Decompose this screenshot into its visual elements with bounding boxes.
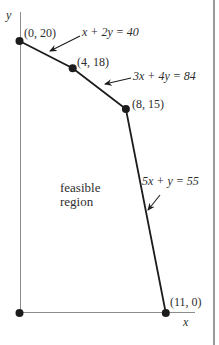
- arrow-to-line-5x-plus-y: [148, 195, 160, 210]
- feasible-region-label: feasible region: [60, 181, 100, 209]
- feasible-region-label-line1: feasible: [60, 181, 100, 195]
- arrow-to-line-3x-plus-4y: [105, 78, 131, 84]
- vertex-dot: [69, 64, 77, 72]
- equation-label-3x-plus-4y-84: 3x + 4y = 84: [133, 70, 196, 83]
- page-border: [213, 0, 215, 345]
- vertex-dot: [16, 309, 24, 317]
- feasible-region-label-line2: region: [60, 195, 100, 209]
- y-axis-label: y: [6, 9, 11, 22]
- equation-label-x-plus-2y-40: x + 2y = 40: [82, 26, 139, 39]
- vertex-label-4-18: (4, 18): [77, 56, 109, 69]
- vertex-dot: [16, 37, 24, 45]
- feasible-region-figure: y x (0, 20) (4, 18) (8, 15) (11, 0) x + …: [0, 0, 219, 345]
- diagram-canvas: [0, 0, 219, 345]
- vertex-dot: [162, 309, 170, 317]
- vertex-label-8-15: (8, 15): [132, 98, 164, 111]
- vertex-label-0-20: (0, 20): [24, 27, 56, 40]
- vertex-label-11-0: (11, 0): [170, 296, 202, 309]
- equation-label-5x-plus-y-55: 5x + y = 55: [142, 175, 199, 188]
- vertex-dot: [122, 105, 130, 113]
- x-axis-label: x: [183, 316, 188, 329]
